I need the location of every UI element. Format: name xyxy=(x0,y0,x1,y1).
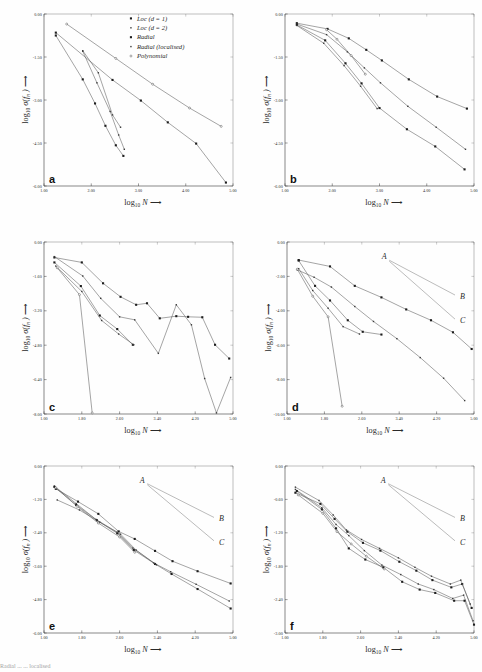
data-point xyxy=(342,326,343,327)
data-point xyxy=(383,568,385,570)
x-axis-title: log10 N ⟶ xyxy=(365,198,402,208)
data-point xyxy=(189,107,191,109)
data-point xyxy=(204,378,205,379)
panel-f: 1.001.802.603.404.205.000.00-0.60-1.20-1… xyxy=(241,452,482,669)
series-curve-3 xyxy=(296,24,466,171)
data-point xyxy=(55,265,56,266)
data-point xyxy=(176,304,177,305)
svg-text:log10 σ(fn ) ⟶: log10 σ(fn ) ⟶ xyxy=(262,75,272,123)
y-tick-label: -4.80 xyxy=(33,343,42,348)
leader-line-b xyxy=(147,484,214,518)
data-point xyxy=(197,588,199,590)
data-point xyxy=(312,295,314,297)
data-point xyxy=(346,529,347,530)
y-axis-title: log10 σ(fn ) ⟶ xyxy=(21,303,31,351)
x-tick-label: 2.60 xyxy=(116,416,124,421)
data-point xyxy=(436,96,438,98)
data-point xyxy=(322,512,324,514)
leader-line-b xyxy=(388,484,455,518)
data-point xyxy=(473,624,475,626)
data-point xyxy=(135,549,136,550)
y-axis-title: log10 σ(fn ) ⟶ xyxy=(262,525,272,573)
data-point xyxy=(296,25,297,26)
x-tick-label: 5.00 xyxy=(470,416,478,421)
data-point xyxy=(115,144,117,146)
axis-lines xyxy=(285,466,474,633)
y-tick-label: 0.00 xyxy=(275,12,283,17)
annotation-b: B xyxy=(460,514,465,523)
plot-c: 1.001.802.603.404.205.000.00-1.60-3.20-4… xyxy=(0,228,241,452)
data-point xyxy=(297,494,299,496)
series-curve-4 xyxy=(296,25,378,110)
series-curve-C xyxy=(53,486,231,610)
data-point xyxy=(344,62,346,64)
x-tick-label: 5.00 xyxy=(470,635,478,640)
data-point xyxy=(396,338,397,339)
data-point xyxy=(159,317,161,319)
data-point xyxy=(329,265,331,267)
y-tick-label: -6.00 xyxy=(274,184,283,189)
x-tick-label: 2.60 xyxy=(357,635,365,640)
data-point xyxy=(134,319,135,320)
data-point xyxy=(321,508,323,510)
series-line xyxy=(56,266,134,345)
data-point xyxy=(443,378,444,379)
x-tick-label: 4.20 xyxy=(433,416,441,421)
data-point xyxy=(130,17,132,19)
data-point xyxy=(319,503,321,505)
data-point xyxy=(112,114,113,115)
series-line xyxy=(56,36,124,156)
data-point xyxy=(380,333,382,335)
y-tick-label: -3.00 xyxy=(33,98,42,103)
series-line xyxy=(57,268,92,413)
data-point xyxy=(348,547,350,549)
y-tick-label: -1.60 xyxy=(33,274,42,279)
data-point xyxy=(436,127,437,128)
data-point xyxy=(450,586,452,588)
legend-item-label: Loc (d = 2) xyxy=(136,24,167,32)
data-point xyxy=(216,412,217,413)
annotation-b: B xyxy=(460,292,465,301)
x-axis-title: log10 N ⟶ xyxy=(124,426,161,436)
x-tick-label: 1.00 xyxy=(40,635,48,640)
data-point xyxy=(80,285,82,287)
data-point xyxy=(401,581,403,583)
data-point xyxy=(381,564,382,565)
svg-text:log10 σ(fn ) ⟶: log10 σ(fn ) ⟶ xyxy=(21,75,31,123)
series-curve-C xyxy=(296,490,475,626)
axis-frame xyxy=(44,466,233,633)
data-point xyxy=(82,51,83,52)
y-tick-label: -2.40 xyxy=(274,597,283,602)
data-point xyxy=(408,78,410,80)
data-point xyxy=(365,555,367,557)
data-point xyxy=(326,29,328,31)
y-tick-label: 0.00 xyxy=(34,240,42,245)
data-point xyxy=(109,111,110,112)
data-point xyxy=(130,36,132,38)
data-point xyxy=(470,603,471,604)
x-tick-label: 1.00 xyxy=(281,188,289,193)
data-point xyxy=(175,315,177,317)
x-tick-label: 1.00 xyxy=(283,416,291,421)
leader-line-c xyxy=(388,485,455,541)
y-tick-label: -6.00 xyxy=(276,343,285,348)
series-line xyxy=(54,257,230,413)
svg-text:log10 σ(fn ) ⟶: log10 σ(fn ) ⟶ xyxy=(21,525,31,573)
data-point xyxy=(134,551,136,553)
data-point xyxy=(463,594,464,595)
data-point xyxy=(364,558,366,560)
axis-frame xyxy=(287,242,474,414)
data-point xyxy=(343,65,344,66)
y-tick-label: -6.00 xyxy=(33,184,42,189)
panel-letter: c xyxy=(49,401,55,413)
svg-text:log10 σ(fn ) ⟶: log10 σ(fn ) ⟶ xyxy=(264,303,274,351)
data-point xyxy=(146,302,148,304)
data-point xyxy=(119,296,121,298)
data-point xyxy=(156,564,157,565)
data-point xyxy=(434,592,436,594)
series-curve-1 xyxy=(53,256,230,359)
x-tick-label: 1.80 xyxy=(319,635,327,640)
series-line xyxy=(297,491,474,625)
x-tick-label: 4.20 xyxy=(432,635,440,640)
data-point xyxy=(91,412,93,414)
